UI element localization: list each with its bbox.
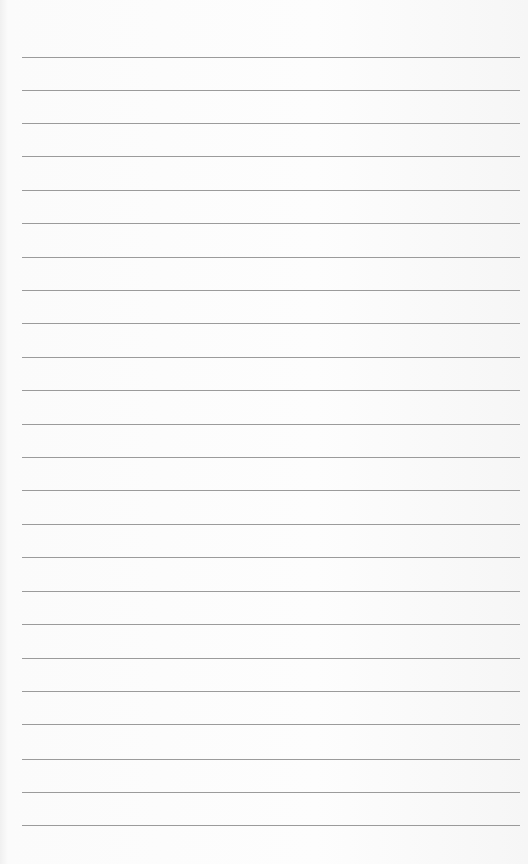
ruled-line bbox=[22, 524, 520, 525]
ruled-line bbox=[22, 290, 520, 291]
ruled-line bbox=[22, 691, 520, 692]
ruled-line bbox=[22, 457, 520, 458]
ruled-line bbox=[22, 190, 520, 191]
ruled-line bbox=[22, 658, 520, 659]
ruled-line bbox=[22, 357, 520, 358]
ruled-line bbox=[22, 257, 520, 258]
lined-paper-sheet bbox=[0, 0, 528, 864]
ruled-line bbox=[22, 156, 520, 157]
ruled-line bbox=[22, 490, 520, 491]
ruled-line bbox=[22, 57, 520, 58]
ruled-line bbox=[22, 591, 520, 592]
ruled-line bbox=[22, 90, 520, 91]
ruled-line bbox=[22, 390, 520, 391]
ruled-line bbox=[22, 624, 520, 625]
ruled-line bbox=[22, 424, 520, 425]
ruled-line bbox=[22, 323, 520, 324]
ruled-line bbox=[22, 825, 520, 826]
ruled-line bbox=[22, 724, 520, 725]
ruled-line bbox=[22, 223, 520, 224]
ruled-line bbox=[22, 557, 520, 558]
ruled-line bbox=[22, 792, 520, 793]
ruled-line bbox=[22, 759, 520, 760]
ruled-line bbox=[22, 123, 520, 124]
